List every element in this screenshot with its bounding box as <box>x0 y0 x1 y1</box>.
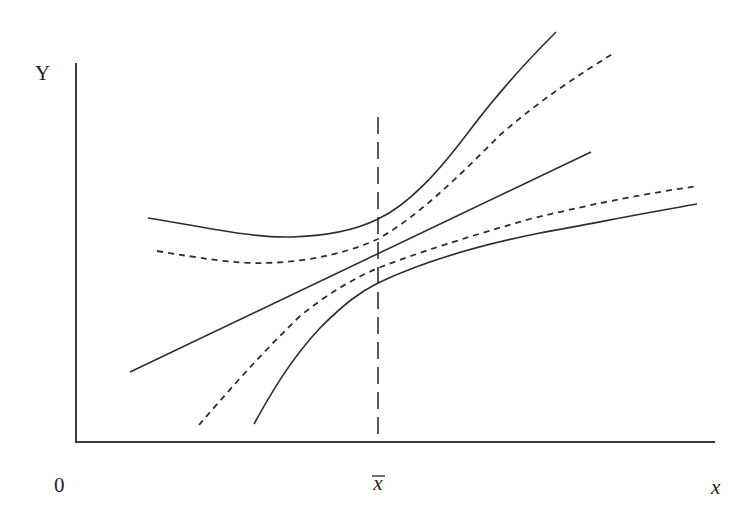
regression-band-diagram: Y 0 x x <box>0 0 751 526</box>
mean-x-label: x <box>372 471 383 495</box>
x-axis-label: x <box>710 475 721 499</box>
origin-label: 0 <box>54 473 65 497</box>
y-axis-label: Y <box>35 61 50 85</box>
outer-band-lower <box>254 204 697 424</box>
outer-band-upper <box>148 32 556 237</box>
regression-line <box>130 152 591 372</box>
